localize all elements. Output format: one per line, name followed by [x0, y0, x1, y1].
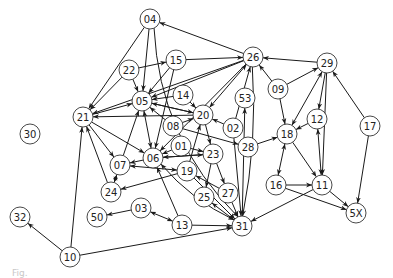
node-23: 23 [203, 144, 223, 164]
edge-20-21 [93, 115, 193, 117]
edge-27-19 [196, 176, 219, 189]
edge-04-05 [143, 29, 149, 91]
node-label: 20 [197, 110, 210, 121]
edge-15-26 [186, 57, 243, 59]
node-label: 06 [147, 153, 160, 164]
node-20: 20 [193, 105, 213, 125]
node-53: 53 [235, 88, 255, 108]
node-26: 26 [243, 47, 263, 67]
edge-28-18 [257, 137, 277, 144]
node-11: 11 [312, 175, 332, 195]
node-label: 26 [247, 52, 260, 63]
edge-26-04 [159, 22, 243, 53]
node-label: 53 [239, 93, 252, 104]
edge-03-13 [150, 212, 173, 221]
node-label: 01 [175, 141, 188, 152]
edge-layer [28, 22, 369, 255]
edge-21-06 [92, 122, 145, 153]
edge-12-11 [318, 129, 321, 175]
node-label: 30 [24, 129, 37, 140]
node-label: 29 [321, 58, 334, 69]
node-27: 27 [218, 183, 238, 203]
edge-09-26 [259, 65, 272, 81]
node-label: 27 [222, 188, 235, 199]
node-16: 16 [266, 175, 286, 195]
node-22: 22 [119, 60, 139, 80]
node-label: 12 [311, 114, 324, 125]
node-label: 07 [114, 160, 127, 171]
node-29: 29 [317, 53, 337, 73]
node-21: 21 [73, 107, 93, 127]
edge-17-29 [333, 71, 365, 117]
node-14: 14 [173, 85, 193, 105]
node-label: 15 [170, 55, 183, 66]
edge-29-26 [263, 58, 317, 62]
edge-10-31 [80, 228, 232, 255]
node-label: 05 [136, 96, 149, 107]
edge-09-29 [287, 68, 318, 85]
node-28: 28 [238, 137, 258, 157]
edge-11-31 [251, 190, 313, 222]
node-17: 17 [360, 116, 380, 136]
node-label: 19 [181, 166, 194, 177]
node-5X: 5X [346, 203, 366, 223]
node-15: 15 [166, 50, 186, 70]
node-09: 09 [268, 79, 288, 99]
node-layer: 0426291522051409532021080212171828013006… [10, 9, 380, 267]
edge-18-16 [278, 144, 285, 175]
edge-14-05 [152, 96, 173, 99]
node-label: 31 [236, 221, 249, 232]
edge-10-32 [28, 223, 62, 251]
node-label: 25 [198, 192, 211, 203]
node-24: 24 [101, 182, 121, 202]
node-19: 19 [177, 161, 197, 181]
edge-01-06 [162, 150, 172, 154]
node-13: 13 [172, 215, 192, 235]
node-label: 02 [227, 123, 240, 134]
edge-21-05 [93, 104, 133, 115]
edge-19-24 [121, 174, 178, 190]
node-label: 04 [144, 14, 157, 25]
node-30: 30 [20, 124, 40, 144]
node-label: 28 [242, 142, 255, 153]
node-label: 10 [64, 252, 77, 263]
edge-03-50 [107, 210, 131, 215]
node-07: 07 [110, 155, 130, 175]
node-02: 02 [223, 118, 243, 138]
edge-20-23 [205, 125, 210, 145]
edge-13-31 [192, 225, 232, 226]
edge-18-11 [293, 142, 317, 177]
node-label: 11 [316, 180, 329, 191]
edge-08-05 [150, 107, 165, 119]
node-label: 16 [270, 180, 283, 191]
edge-23-27 [217, 163, 225, 183]
node-18: 18 [277, 124, 297, 144]
edge-21-07 [89, 125, 114, 157]
edge-26-05 [151, 61, 243, 98]
node-25: 25 [194, 187, 214, 207]
node-06: 06 [143, 148, 163, 168]
node-label: 13 [176, 220, 189, 231]
edge-22-05 [133, 79, 138, 92]
edge-07-24 [114, 174, 117, 182]
node-04: 04 [140, 9, 160, 29]
edge-09-18 [280, 99, 285, 124]
node-01: 01 [171, 136, 191, 156]
edge-25-31 [212, 203, 234, 220]
edge-14-20 [190, 102, 196, 108]
node-50: 50 [87, 207, 107, 227]
node-12: 12 [307, 109, 327, 129]
edge-06-07 [130, 160, 143, 163]
figure-caption: Fig. [12, 268, 28, 278]
edge-19-20 [190, 125, 201, 162]
edge-17-5X [358, 136, 369, 203]
node-label: 09 [272, 84, 285, 95]
node-31: 31 [232, 216, 252, 236]
node-label: 14 [177, 90, 190, 101]
node-label: 23 [207, 149, 220, 160]
node-label: 03 [135, 203, 148, 214]
node-label: 22 [123, 65, 136, 76]
node-label: 32 [14, 212, 27, 223]
node-05: 05 [132, 91, 152, 111]
